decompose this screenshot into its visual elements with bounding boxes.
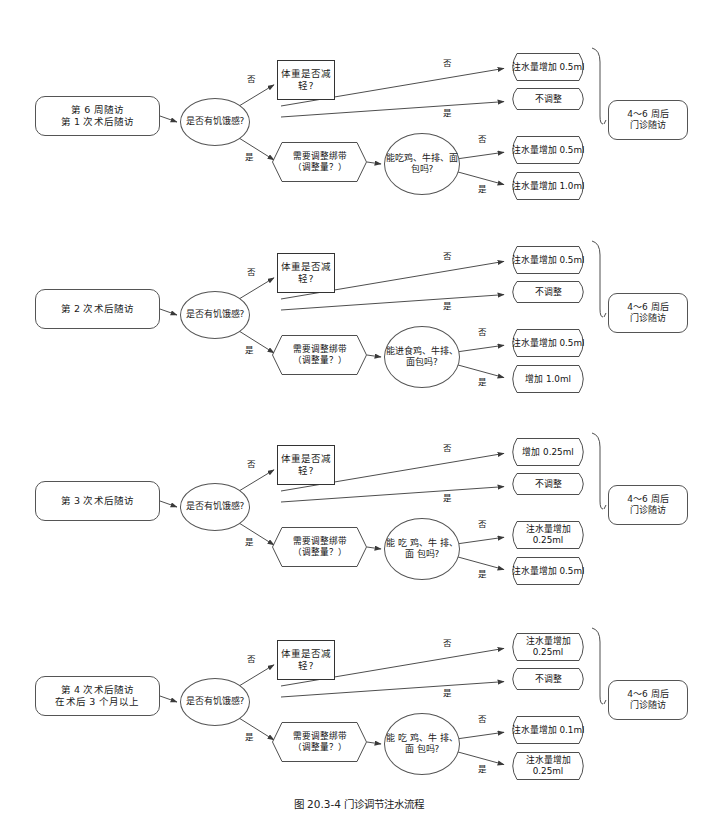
visit-2-hunger-question: 是否有饥饿感? [180,291,250,339]
visit-3-label-food-no: 否 [478,517,487,529]
visit-2-band-question-line2: （调整量？） [293,355,347,365]
visit-4-result-weight-yes-label: 不调整 [508,668,588,690]
visit-2-label-hunger-yes: 是 [245,343,254,355]
visit-3-band-question-line1: 需要调整绑带 [293,536,347,546]
visit-3-result-food-yes: 注水量增加 0.5ml [508,557,588,585]
visit-3-start-node: 第 3 次术后随访 [35,481,160,521]
visit-2-result-food-yes-label: 增加 1.0ml [508,365,588,393]
visit-2-result-weight-yes-label: 不调整 [508,281,588,303]
visit-3-food-text: 能 吃 鸡、牛 排、面 包吗? [385,538,459,561]
visit-1-food-text: 能吃鸡、牛排、面包吗? [385,153,459,176]
visit-4-hunger-text: 是否有饥饿感? [186,696,245,707]
visit-1-weight-question: 体重是否减轻? [277,60,335,100]
visit-4-label-hunger-yes: 是 [245,730,254,742]
visit-1-label-food-no: 否 [478,132,487,144]
visit-3-band-question: 需要调整绑带（调整量？） [272,527,367,567]
visit-1-hunger-text: 是否有饥饿感? [186,116,245,127]
visit-2-label-hunger-no: 否 [247,265,256,277]
visit-2-end-node: 4～6 周后门诊随访 [608,293,688,333]
visit-4-result-weight-no: 注水量增加 0.25ml [508,633,588,661]
visit-3-label-hunger-no: 否 [247,457,256,469]
visit-3-end-line2: 门诊随访 [627,505,668,516]
visit-4-end-line1: 4～6 周后 [627,689,668,700]
visit-4-end-node: 4～6 周后门诊随访 [608,680,688,720]
visit-2-start-node: 第 2 次术后随访 [35,289,160,329]
visit-1-result-weight-no-label: 注水量增加 0.5ml [508,53,588,81]
visit-3-label-weight-no: 否 [443,441,452,453]
visit-2-result-weight-yes: 不调整 [508,281,588,303]
visit-3-end-line1: 4～6 周后 [627,494,668,505]
flowchart-canvas: 第 6 周随访第 1 次术后随访是否有饥饿感?体重是否减轻?需要调整绑带（调整量… [0,0,718,838]
visit-1-start-line2: 第 1 次术后随访 [61,116,135,128]
visit-4-label-weight-no: 否 [443,636,452,648]
visit-2-weight-text: 体重是否减轻? [278,261,334,285]
visit-1-weight-text: 体重是否减轻? [278,68,334,92]
visit-3-result-weight-yes-label: 不调整 [508,473,588,495]
visit-1-end-line1: 4～6 周后 [627,109,668,120]
visit-2-hunger-text: 是否有饥饿感? [186,309,245,320]
visit-4-result-food-no: 注水量增加 0.1ml [508,716,588,744]
visit-3-result-weight-no: 增加 0.25ml [508,438,588,466]
visit-4-result-weight-no-label: 注水量增加 0.25ml [508,633,588,661]
visit-1-result-food-no: 注水量增加 0.5ml [508,136,588,164]
visit-4-label-food-no: 否 [478,712,487,724]
visit-3-food-question: 能 吃 鸡、牛 排、面 包吗? [384,518,460,580]
visit-3-result-weight-yes: 不调整 [508,473,588,495]
visit-1-end-line2: 门诊随访 [627,120,668,131]
visit-2-band-question-line1: 需要调整绑带 [293,344,347,354]
visit-4-food-question: 能 吃 鸡、牛 排、面 包吗? [384,713,460,775]
figure-caption: 图 20.3-4 门诊调节注水流程 [0,796,718,811]
visit-4-label-hunger-no: 否 [247,652,256,664]
visit-3-hunger-text: 是否有饥饿感? [186,501,245,512]
visit-4-result-food-no-label: 注水量增加 0.1ml [508,716,588,744]
visit-1-result-weight-no: 注水量增加 0.5ml [508,53,588,81]
visit-2-food-text: 能进食鸡、牛排、面包吗? [385,346,459,369]
visit-4-weight-text: 体重是否减轻? [278,648,334,672]
visit-1-start-line1: 第 6 周随访 [61,104,135,116]
visit-3-label-hunger-yes: 是 [245,535,254,547]
visit-4-band-question-line1: 需要调整绑带 [293,731,347,741]
visit-4-result-weight-yes: 不调整 [508,668,588,690]
visit-1-hunger-question: 是否有饥饿感? [180,98,250,146]
visit-2-label-food-no: 否 [478,325,487,337]
visit-1-band-question-line1: 需要调整绑带 [293,151,347,161]
visit-4-band-question: 需要调整绑带（调整量？） [272,722,367,762]
visit-2-result-weight-no-label: 注水量增加 0.5ml [508,246,588,274]
visit-2-end-line2: 门诊随访 [627,313,668,324]
visit-1-result-food-yes-label: 注水量增加 1.0ml [508,172,588,200]
visit-3-weight-question: 体重是否减轻? [277,445,335,485]
visit-3-result-food-yes-label: 注水量增加 0.5ml [508,557,588,585]
visit-2-result-food-yes: 增加 1.0ml [508,365,588,393]
visit-1-label-hunger-no: 否 [247,72,256,84]
visit-4-label-weight-yes: 是 [443,686,452,698]
visit-1-result-weight-yes-label: 不调整 [508,88,588,110]
visit-3-result-weight-no-label: 增加 0.25ml [508,438,588,466]
visit-1-result-food-no-label: 注水量增加 0.5ml [508,136,588,164]
visit-4-result-food-yes-label: 注水量增加 0.25ml [508,752,588,780]
visit-4-food-text: 能 吃 鸡、牛 排、面 包吗? [385,733,459,756]
visit-3-result-food-no-label: 注水量增加 0.25ml [508,521,588,549]
visit-4-weight-question: 体重是否减轻? [277,640,335,680]
visit-2-label-weight-no: 否 [443,249,452,261]
visit-2-food-question: 能进食鸡、牛排、面包吗? [384,326,460,388]
visit-1-end-node: 4～6 周后门诊随访 [608,100,688,140]
visit-3-weight-text: 体重是否减轻? [278,453,334,477]
visit-1-band-question-line2: （调整量？） [293,162,347,172]
visit-1-result-weight-yes: 不调整 [508,88,588,110]
visit-2-start-line1: 第 2 次术后随访 [61,303,135,314]
visit-2-label-food-yes: 是 [478,375,487,387]
visit-1-start-node: 第 6 周随访第 1 次术后随访 [35,96,160,136]
visit-4-start-line1: 第 4 次术后随访 [55,684,139,696]
visit-4-band-question-line2: （调整量？） [293,742,347,752]
visit-4-hunger-question: 是否有饥饿感? [180,678,250,726]
visit-1-label-weight-no: 否 [443,56,452,68]
visit-3-hunger-question: 是否有饥饿感? [180,483,250,531]
visit-3-band-question-line2: （调整量？） [293,547,347,557]
visit-2-label-weight-yes: 是 [443,299,452,311]
visit-3-end-node: 4～6 周后门诊随访 [608,485,688,525]
visit-2-result-weight-no: 注水量增加 0.5ml [508,246,588,274]
visit-1-label-weight-yes: 是 [443,106,452,118]
visit-4-start-node: 第 4 次术后随访在术后 3 个月以上 [35,676,160,716]
visit-3-start-line1: 第 3 次术后随访 [61,495,135,506]
visit-4-result-food-yes: 注水量增加 0.25ml [508,752,588,780]
